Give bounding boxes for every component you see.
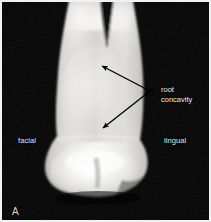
label-root-concavity-line1: root	[161, 85, 192, 95]
photo-canvas: facial lingual root concavity A	[2, 2, 209, 220]
tooth-photograph	[2, 2, 209, 220]
central-groove-shadow	[96, 158, 98, 188]
label-facial: facial	[18, 136, 36, 145]
label-root-concavity-line2: concavity	[161, 95, 192, 105]
specimen-cast-shadow	[56, 191, 140, 205]
label-lingual: lingual	[164, 136, 186, 145]
figure-root-concavity: facial lingual root concavity A	[0, 0, 211, 222]
panel-letter: A	[12, 206, 19, 217]
label-root-concavity: root concavity	[161, 85, 192, 105]
